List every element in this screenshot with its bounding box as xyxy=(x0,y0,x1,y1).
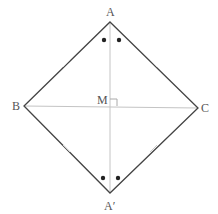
right-angle-mark xyxy=(110,99,117,106)
label-C: C xyxy=(201,101,209,115)
label-A: A xyxy=(106,5,115,19)
label-A-prime: A′ xyxy=(104,199,116,213)
equal-angle-dots xyxy=(101,38,121,180)
rhombus-diagram: A B C A′ M xyxy=(0,0,218,214)
label-B: B xyxy=(12,99,20,113)
label-M: M xyxy=(97,93,108,107)
diagonal-BC xyxy=(24,106,198,108)
